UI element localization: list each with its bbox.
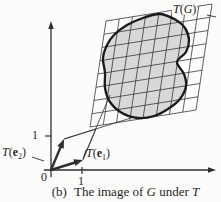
grid-line-steep xyxy=(196,4,212,110)
label-leader-line xyxy=(32,157,44,161)
caption-text-pre: The image of xyxy=(74,184,143,199)
figure-canvas: T(G) T(e2) T(e1) 1 1 0 (b)The image of G… xyxy=(0,0,221,202)
y-axis-tick-label-1: 1 xyxy=(32,129,38,141)
label-t-of-e2-T: T xyxy=(2,145,9,159)
y-axis-arrow-head xyxy=(48,21,54,29)
caption-index: (b) xyxy=(52,184,67,199)
origin-label: 0 xyxy=(41,171,47,183)
caption-G: G xyxy=(147,184,156,199)
caption-T: T xyxy=(192,184,199,199)
x-axis-arrow-head xyxy=(208,167,216,173)
label-t-of-g-T: T xyxy=(173,2,180,16)
label-t-of-e2: T(e2) xyxy=(2,146,26,161)
label-t-of-g-close: ) xyxy=(192,2,196,16)
label-t-of-e2-close: ) xyxy=(22,145,26,159)
figure-caption: (b)The image of G under T xyxy=(0,184,221,199)
label-t-of-e1: T(e1) xyxy=(86,147,110,162)
label-leader-line xyxy=(207,15,216,17)
label-t-of-g: T(G) xyxy=(172,3,197,15)
caption-text-mid: under xyxy=(159,184,189,199)
vector-t-e1-arrow-head xyxy=(73,159,83,166)
grid-line-steep xyxy=(183,6,199,112)
diagram-svg xyxy=(0,0,221,202)
vector-t-e2-arrow-head xyxy=(57,139,64,149)
label-t-of-e1-close: ) xyxy=(106,146,110,160)
label-t-of-e1-T: T xyxy=(86,146,93,160)
